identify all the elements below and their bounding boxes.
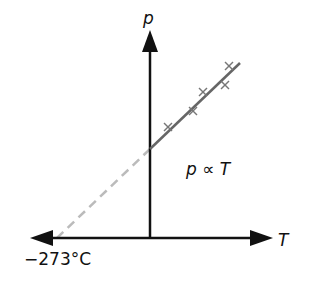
pressure-temperature-diagram: p T −273°C p ∝ T <box>0 0 309 297</box>
fit-line <box>150 63 240 149</box>
y-axis-arrow-icon <box>142 30 158 52</box>
intercept-label: −273°C <box>24 249 91 269</box>
relation-label: p ∝ T <box>185 159 232 179</box>
cross-marker-icon <box>199 88 207 96</box>
x-axis-label: T <box>278 230 290 250</box>
data-points <box>164 62 233 131</box>
x-axis-left-arrow-icon <box>30 230 53 246</box>
cross-marker-icon <box>221 81 229 89</box>
cross-marker-icon <box>225 62 233 70</box>
cross-marker-icon <box>164 123 172 131</box>
y-axis-label: p <box>142 8 154 28</box>
extrapolation-line <box>57 149 150 238</box>
x-axis-right-arrow-icon <box>250 230 273 246</box>
